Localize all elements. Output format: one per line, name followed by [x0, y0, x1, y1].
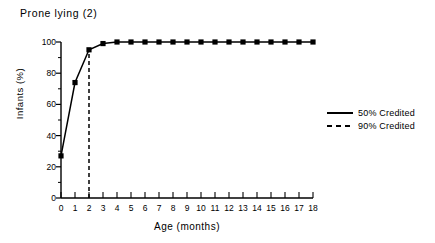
legend-label-50-credited: 50% Credited [358, 108, 415, 118]
data-point-marker [310, 39, 315, 44]
data-point-marker [58, 153, 63, 158]
data-point-marker [100, 41, 105, 46]
data-point-marker [212, 39, 217, 44]
y-tick-label: 0 [51, 193, 56, 203]
y-axis [56, 42, 61, 198]
data-point-marker [114, 39, 119, 44]
dashed-line-icon [327, 121, 353, 131]
data-point-marker [156, 39, 161, 44]
data-point-marker [170, 39, 175, 44]
data-point-marker [184, 39, 189, 44]
data-point-marker [282, 39, 287, 44]
data-point-marker [198, 39, 203, 44]
y-tick-label: 60 [47, 99, 56, 109]
solid-line-icon [327, 108, 353, 118]
data-series-50-credited [58, 39, 315, 158]
y-tick-label: 40 [47, 131, 56, 141]
data-point-marker [72, 80, 77, 85]
data-point-marker [128, 39, 133, 44]
data-point-marker [226, 39, 231, 44]
data-point-marker [296, 39, 301, 44]
x-tick-label: 18 [303, 203, 323, 213]
legend-label-90-credited: 90% Credited [358, 121, 415, 131]
y-tick-label: 80 [47, 68, 56, 78]
data-point-marker [254, 39, 259, 44]
series-line [61, 42, 313, 156]
y-tick-label: 20 [47, 162, 56, 172]
chart-container: Prone lying (2) Infants (%) Age (months) [0, 0, 435, 243]
data-point-marker [240, 39, 245, 44]
legend-item-50-credited: 50% Credited [327, 106, 415, 119]
data-point-marker [142, 39, 147, 44]
data-point-marker [268, 39, 273, 44]
legend-item-90-credited: 90% Credited [327, 119, 415, 132]
chart-legend: 50% Credited 90% Credited [327, 106, 415, 132]
x-axis [61, 192, 313, 198]
y-tick-label: 100 [42, 37, 56, 47]
